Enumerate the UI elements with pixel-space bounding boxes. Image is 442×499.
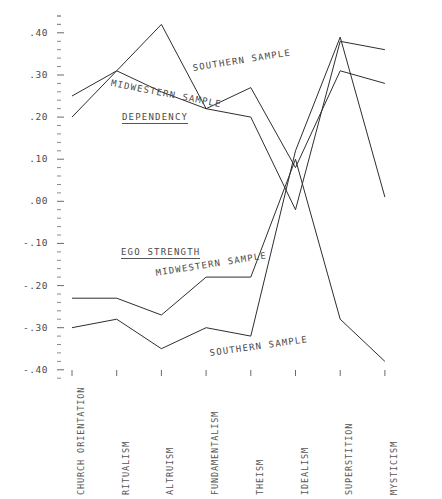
line-chart-figure: .40.30.20.10.00-.10-.20-.30-.40 CHURCH O… (0, 0, 442, 499)
y-axis-tick-label: .40 (14, 27, 48, 38)
x-axis-tick-label: IDEALISM (300, 447, 310, 495)
annotation-dependency: DEPENDENCY (122, 112, 188, 124)
y-axis-tick-label: .00 (14, 195, 48, 206)
x-axis-tick-label: FUNDAMENTALISM (210, 411, 220, 495)
y-axis-tick-label: -.30 (14, 322, 48, 333)
y-axis-tick-label: -.20 (14, 280, 48, 291)
annotation-ego-strength: EGO STRENGTH (121, 247, 200, 259)
x-axis-tick-label: RITUALISM (121, 441, 131, 495)
x-axis-tick-label: MYSTICISM (389, 441, 399, 495)
y-axis-tick-label: .30 (14, 69, 48, 80)
y-axis-tick-label: .10 (14, 153, 48, 164)
x-axis-tick-label: CHURCH ORIENTATION (76, 387, 86, 495)
plot-canvas (0, 0, 442, 499)
x-axis-tick-label: THEISM (255, 459, 265, 495)
y-axis-tick-label: -.10 (14, 237, 48, 248)
x-axis-tick-label: ALTRUISM (165, 447, 175, 495)
y-axis-ticks (57, 16, 64, 378)
x-axis-tick-label: SUPERSTITION (344, 423, 354, 495)
y-axis-tick-label: .20 (14, 111, 48, 122)
y-axis-tick-label: -.40 (14, 364, 48, 375)
series-lines (72, 24, 385, 361)
x-axis-ticks (72, 370, 385, 376)
